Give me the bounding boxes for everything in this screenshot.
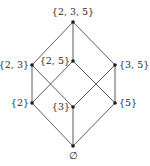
node-label-n25: {2, 5} (40, 55, 70, 66)
edge-n35-n3 (73, 65, 115, 107)
node-nempty (71, 144, 75, 148)
node-n3 (71, 105, 75, 109)
node-label-nempty: ∅ (69, 150, 78, 161)
edge-n5-nempty (73, 103, 115, 146)
labels-group: {2, 3, 5}{2, 3}{2, 5}{3, 5}{2}{3}{5}∅ (0, 6, 149, 161)
node-label-n235: {2, 3, 5} (52, 6, 94, 17)
node-n35 (113, 63, 117, 67)
node-n2 (30, 101, 34, 105)
edge-n235-n35 (73, 22, 115, 65)
node-n25 (71, 59, 75, 63)
edges-group (32, 22, 115, 146)
node-label-n35: {3, 5} (119, 59, 149, 70)
node-n235 (71, 20, 75, 24)
node-n5 (113, 101, 117, 105)
nodes-group (30, 20, 117, 148)
node-label-n2: {2} (11, 97, 29, 108)
edge-n25-n2 (32, 61, 73, 103)
node-label-n5: {5} (119, 97, 137, 108)
node-label-n23: {2, 3} (0, 59, 29, 70)
edge-n25-n5 (73, 61, 115, 103)
hasse-diagram: {2, 3, 5}{2, 3}{2, 5}{3, 5}{2}{3}{5}∅ (0, 0, 150, 166)
node-n23 (30, 63, 34, 67)
node-label-n3: {3} (52, 101, 70, 112)
